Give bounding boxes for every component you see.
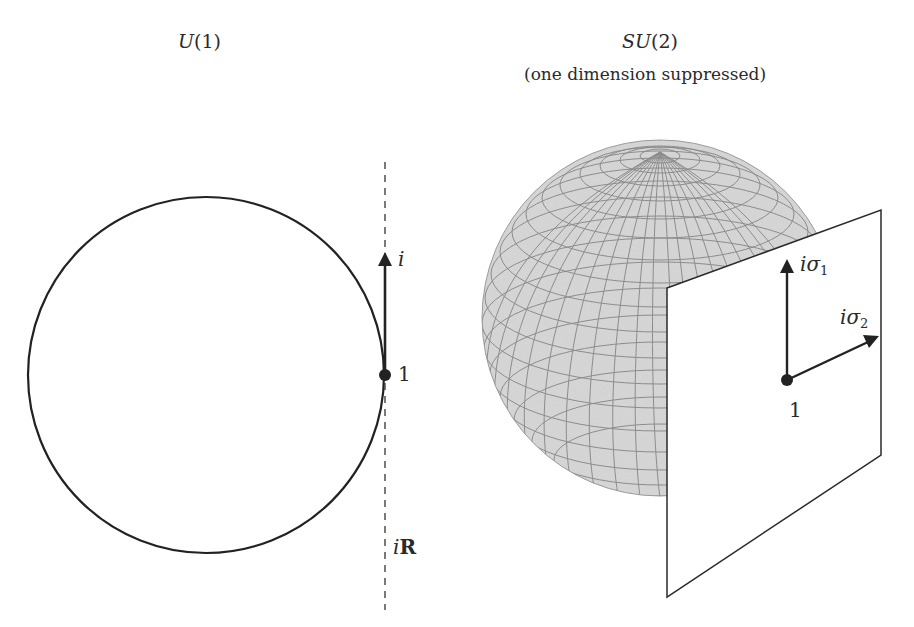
unit-circle (28, 197, 384, 553)
su2-title: SU(2) (622, 30, 678, 52)
vector-label-i-sigma-2: iσ2 (840, 305, 868, 331)
u1-figure (28, 162, 392, 610)
u1-title: U(1) (178, 30, 221, 52)
vector-label-i: i (398, 247, 404, 271)
identity-point (781, 374, 793, 386)
identity-point (379, 369, 391, 381)
diagram-canvas (0, 0, 914, 627)
vector-label-i-sigma-1: iσ1 (800, 252, 828, 278)
su2-figure (480, 138, 881, 597)
point-label-1-right: 1 (789, 398, 802, 422)
arrowhead-icon (378, 252, 392, 266)
point-label-1-left: 1 (398, 362, 411, 386)
su2-subtitle: (one dimension suppressed) (524, 64, 766, 84)
tangent-space-label: iR (393, 535, 416, 559)
